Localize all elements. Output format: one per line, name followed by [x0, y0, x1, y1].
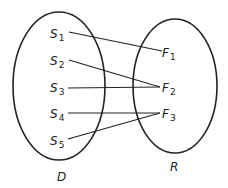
set-d-label: D [57, 170, 66, 184]
element-label-s4: S4 [50, 107, 65, 123]
element-label-f1: F1 [162, 46, 176, 62]
sets-layer: DR [13, 12, 217, 184]
mapping-lines-layer [68, 32, 162, 139]
mapping-line-s3-f2 [68, 87, 160, 88]
element-label-s1: S1 [50, 27, 64, 43]
element-label-f2: F2 [162, 81, 176, 97]
set-r-ellipse [133, 19, 217, 153]
diagram-canvas: DR S1S2S3S4S5F1F2F3 [0, 0, 228, 188]
set-mapping-diagram: DR S1S2S3S4S5F1F2F3 [0, 0, 228, 188]
mapping-line-s2-f2 [69, 60, 160, 87]
element-label-s3: S3 [50, 81, 64, 97]
element-label-f3: F3 [162, 107, 176, 123]
element-label-s5: S5 [50, 134, 64, 150]
set-r-label: R [170, 160, 178, 174]
element-label-s2: S2 [50, 54, 64, 70]
